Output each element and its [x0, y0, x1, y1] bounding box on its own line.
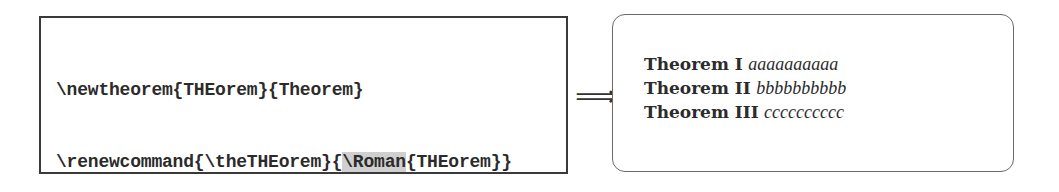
theorem-item: Theorem I aaaaaaaaaa: [644, 52, 846, 76]
theorem-item: Theorem III cccccccccc: [644, 100, 846, 124]
code-line-renewcommand-prefix: \renewcommand{\theTHEorem}{: [56, 152, 342, 172]
theorem-body: cccccccccc: [764, 102, 844, 122]
rendered-output-box: Theorem I aaaaaaaaaa Theorem II bbbbbbbb…: [612, 14, 1014, 172]
code-line-renewcommand-suffix: {THEorem}}: [406, 152, 512, 172]
theorem-label: Theorem I: [644, 54, 743, 74]
latex-source-code: \newtheorem{THEorem}{Theorem} \renewcomm…: [56, 30, 512, 192]
code-line-newtheorem: \newtheorem{THEorem}{Theorem}: [56, 78, 512, 102]
theorem-item: Theorem II bbbbbbbbbb: [644, 76, 846, 100]
rendered-theorems: Theorem I aaaaaaaaaa Theorem II bbbbbbbb…: [644, 52, 846, 124]
theorem-body: aaaaaaaaaa: [748, 54, 838, 74]
highlighted-roman-command: \Roman: [342, 152, 406, 172]
latex-source-box: \newtheorem{THEorem}{Theorem} \renewcomm…: [39, 16, 568, 174]
code-line-renewcommand: \renewcommand{\theTHEorem}{\Roman{THEore…: [56, 150, 512, 174]
theorem-label: Theorem III: [644, 102, 759, 122]
theorem-label: Theorem II: [644, 78, 751, 98]
theorem-body: bbbbbbbbbb: [756, 78, 846, 98]
